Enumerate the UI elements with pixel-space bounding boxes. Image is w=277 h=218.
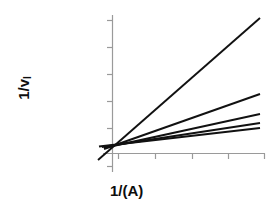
data-line-1 (98, 18, 260, 160)
y-axis-label: 1/vI (2, 66, 46, 110)
data-lines (98, 18, 260, 160)
x-axis-label: 1/(A) (110, 182, 143, 199)
y-axis-label-subscript: I (22, 76, 33, 79)
data-line-2 (104, 94, 260, 149)
x-axis-ticks (119, 154, 265, 160)
figure-canvas: 1/vI 1/(A) (0, 0, 277, 218)
y-axis-label-main: 1/v (15, 79, 32, 100)
